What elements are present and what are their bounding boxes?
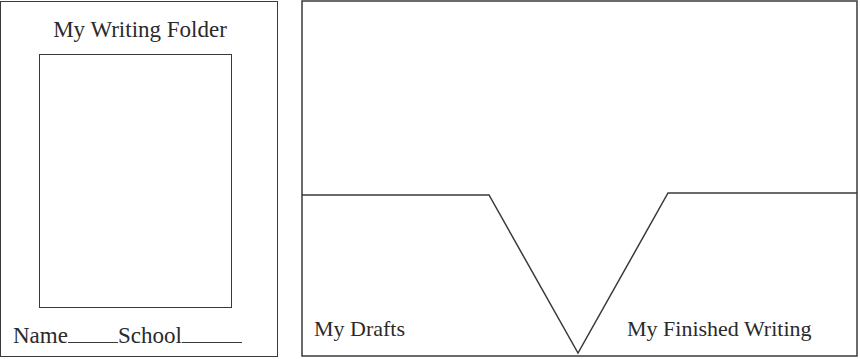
my-finished-writing-pocket-label: My Finished Writing (627, 316, 812, 342)
folder-inside-diagram (0, 0, 860, 359)
folder-inside-border (302, 1, 857, 356)
my-drafts-pocket-label: My Drafts (314, 316, 405, 342)
